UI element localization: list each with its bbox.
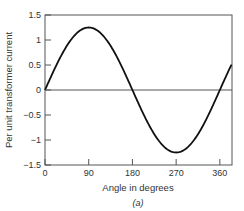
x-tick-label: 270 — [169, 168, 184, 178]
y-tick-label: 1 — [36, 35, 41, 45]
chart: 1.510.50−0.5−1−1.5 090180270360 Per unit… — [0, 0, 244, 211]
plot-area — [45, 15, 232, 165]
y-tick-label: 0.5 — [28, 60, 41, 70]
x-tick-label: 90 — [84, 168, 94, 178]
y-tick-label: −1 — [31, 135, 41, 145]
y-axis: 1.510.50−0.5−1−1.5 — [23, 10, 51, 170]
x-axis: 090180270360 — [42, 159, 227, 178]
figure-caption: (a) — [133, 198, 144, 208]
x-tick-label: 0 — [42, 168, 47, 178]
y-tick-label: 0 — [36, 85, 41, 95]
y-tick-label: 1.5 — [28, 10, 41, 20]
x-tick-label: 180 — [125, 168, 140, 178]
y-tick-label: −1.5 — [23, 160, 41, 170]
x-tick-label: 360 — [212, 168, 227, 178]
y-tick-label: −0.5 — [23, 110, 41, 120]
y-axis-title: Per unit transformer current — [3, 32, 14, 149]
x-axis-title: Angle in degrees — [102, 182, 174, 193]
